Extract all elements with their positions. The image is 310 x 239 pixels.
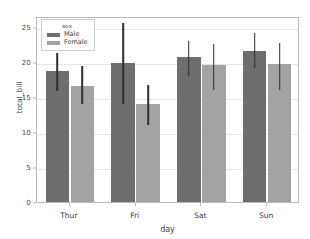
error-bar	[57, 53, 59, 91]
x-tick-label: Fri	[130, 211, 139, 220]
x-tick-label: Sun	[259, 211, 273, 220]
error-bar	[82, 66, 84, 104]
y-tick-label: 25	[22, 24, 31, 32]
x-tick-mark	[200, 203, 201, 206]
legend: sex MaleFemale	[41, 19, 95, 51]
error-bar	[213, 44, 215, 90]
bar	[177, 57, 201, 202]
legend-item-label: Male	[64, 31, 79, 38]
y-tick-label: 0	[26, 199, 31, 207]
x-tick-mark	[135, 203, 136, 206]
error-bar	[122, 23, 124, 104]
error-bar	[188, 41, 190, 76]
x-axis-label: day	[36, 225, 299, 234]
legend-entries: MaleFemale	[47, 31, 88, 46]
error-bar	[147, 85, 149, 126]
x-tick-mark	[69, 203, 70, 206]
error-bar	[279, 43, 281, 90]
legend-swatch-icon	[47, 41, 60, 45]
legend-item: Female	[47, 39, 88, 46]
x-tick-label: Thur	[60, 211, 77, 220]
legend-swatch-icon	[47, 33, 60, 37]
error-bar	[254, 33, 256, 68]
legend-item: Male	[47, 31, 88, 38]
y-axis-label: total_bill	[15, 48, 24, 148]
y-tick-label: 5	[26, 164, 31, 172]
bar	[243, 51, 267, 202]
figure: 0510152025 total_bill ThurFriSatSun day …	[0, 0, 310, 239]
legend-title: sex	[47, 23, 88, 29]
x-tick-label: Sat	[194, 211, 206, 220]
legend-item-label: Female	[64, 39, 88, 46]
x-tick-mark	[266, 203, 267, 206]
